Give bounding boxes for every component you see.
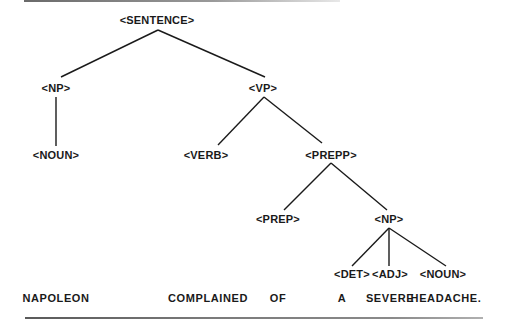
edge-np-det: [352, 228, 389, 266]
word-of: OF: [270, 292, 286, 304]
word-complained: COMPLAINED: [168, 292, 248, 304]
node-sentence: <SENTENCE>: [120, 14, 195, 26]
word-a: A: [338, 292, 347, 304]
node-prep: <PREP>: [256, 213, 300, 225]
word-headache: HEADACHE.: [411, 292, 482, 304]
node-noun-object: <NOUN>: [420, 268, 466, 280]
node-noun-subject: <NOUN>: [33, 149, 79, 161]
bottom-rule: [25, 317, 483, 319]
node-vp: <VP>: [249, 82, 277, 94]
edge-sentence-np: [61, 30, 158, 77]
edge-prepp-np: [331, 163, 387, 210]
edge-vp-verb: [218, 97, 264, 145]
node-verb: <VERB>: [184, 149, 229, 161]
edge-prepp-prep: [284, 163, 331, 210]
edge-vp-prepp: [264, 97, 322, 143]
node-np-object: <NP>: [375, 213, 404, 225]
word-severe: SEVERE: [366, 292, 414, 304]
word-napoleon: NAPOLEON: [22, 292, 89, 304]
edge-np-noun-object: [389, 228, 446, 266]
node-det: <DET>: [334, 268, 370, 280]
node-np-subject: <NP>: [42, 82, 71, 94]
edge-sentence-vp: [158, 30, 265, 77]
node-adj: <ADJ>: [372, 268, 408, 280]
node-prepp: <PREPP>: [305, 149, 357, 161]
